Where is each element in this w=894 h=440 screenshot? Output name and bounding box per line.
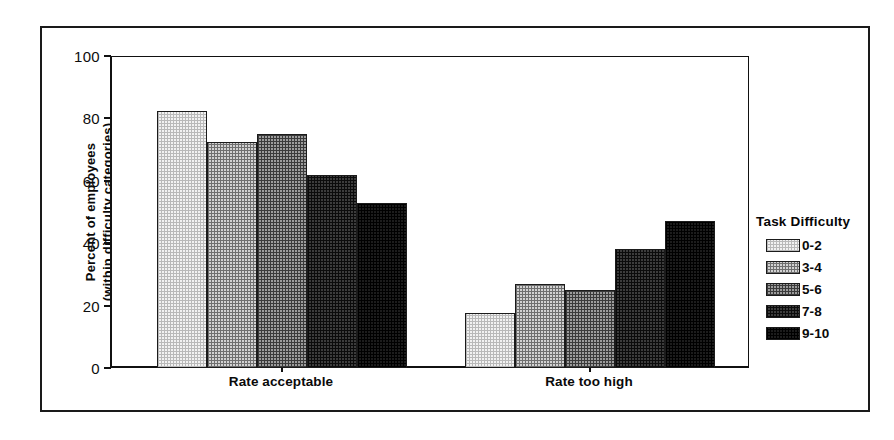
legend-item-label: 5-6 — [802, 282, 822, 297]
bar-rate-acceptable-0-2 — [157, 111, 207, 368]
legend-item-5-6: 5-6 — [766, 282, 876, 297]
legend-item-label: 3-4 — [802, 260, 822, 275]
bar-rate-acceptable-9-10 — [357, 203, 407, 368]
legend-item-label: 0-2 — [802, 238, 822, 253]
y-tick-mark — [104, 55, 111, 57]
legend-item-7-8: 7-8 — [766, 304, 876, 319]
x-axis-label-rate-too-high: Rate too high — [489, 374, 689, 389]
x-axis-label-rate-acceptable: Rate acceptable — [181, 374, 381, 389]
y-tick-mark — [104, 117, 111, 119]
legend-items: 0-23-45-67-89-10 — [766, 238, 876, 341]
y-tick-label: 0 — [91, 360, 100, 377]
y-tick-mark — [104, 305, 111, 307]
bar-rate-too-high-5-6 — [565, 290, 615, 368]
x-tick-group-2 — [589, 368, 591, 372]
y-tick-label: 20 — [83, 297, 100, 314]
legend-item-9-10: 9-10 — [766, 326, 876, 341]
legend-swatch-icon — [766, 327, 800, 340]
legend: Task Difficulty 0-23-45-67-89-10 — [766, 214, 876, 348]
figure-canvas: Percent of employees (within difficulty … — [0, 0, 894, 440]
y-tick-mark — [104, 367, 111, 369]
y-tick-mark — [104, 242, 111, 244]
legend-item-3-4: 3-4 — [766, 260, 876, 275]
legend-swatch-icon — [766, 239, 800, 252]
bar-rate-acceptable-3-4 — [207, 142, 257, 368]
y-tick-label: 100 — [74, 48, 100, 65]
x-tick-group-1 — [281, 368, 283, 372]
bar-rate-too-high-9-10 — [665, 221, 715, 368]
legend-swatch-icon — [766, 283, 800, 296]
bar-rate-too-high-3-4 — [515, 284, 565, 368]
y-tick-mark — [104, 180, 111, 182]
bar-rate-too-high-7-8 — [615, 249, 665, 368]
y-tick-label: 60 — [83, 172, 100, 189]
legend-swatch-icon — [766, 305, 800, 318]
bar-rate-too-high-0-2 — [465, 313, 515, 368]
bar-rate-acceptable-7-8 — [307, 175, 357, 368]
legend-item-label: 7-8 — [802, 304, 822, 319]
legend-swatch-icon — [766, 261, 800, 274]
plot-wrapper: 100 80 60 40 20 0 — [110, 56, 749, 368]
bar-rate-acceptable-5-6 — [257, 134, 307, 368]
y-tick-label: 80 — [83, 110, 100, 127]
legend-item-0-2: 0-2 — [766, 238, 876, 253]
legend-item-label: 9-10 — [802, 326, 829, 341]
legend-title: Task Difficulty — [756, 214, 876, 229]
y-tick-label: 40 — [83, 235, 100, 252]
